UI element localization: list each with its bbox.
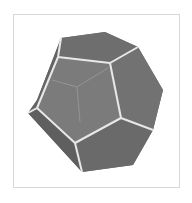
- dodecahedron-figure: [0, 0, 192, 203]
